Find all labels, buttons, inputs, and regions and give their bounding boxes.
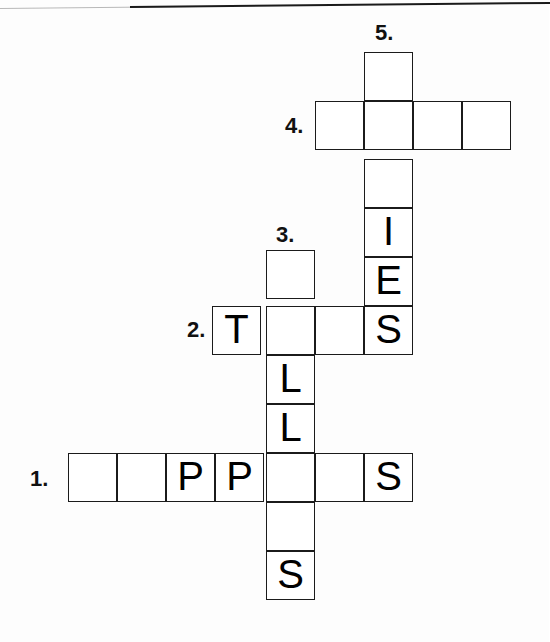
- grid-cell[interactable]: S: [364, 453, 413, 502]
- top-scan-rule: [130, 2, 550, 8]
- clue-number-down-3: 3.: [276, 224, 294, 246]
- clue-number-across-4: 4.: [285, 115, 303, 137]
- grid-cell[interactable]: [413, 101, 462, 150]
- grid-cell[interactable]: L: [266, 355, 315, 404]
- grid-cell[interactable]: L: [266, 404, 315, 453]
- grid-cell[interactable]: [266, 453, 315, 502]
- grid-cell[interactable]: P: [166, 453, 215, 502]
- clue-number-across-2: 2.: [187, 319, 205, 341]
- grid-cell[interactable]: [266, 250, 315, 299]
- clue-number-across-1: 1.: [30, 468, 48, 490]
- grid-cell[interactable]: P: [215, 453, 264, 502]
- grid-cell[interactable]: S: [266, 551, 315, 600]
- grid-cell[interactable]: [462, 101, 511, 150]
- clue-number-down-5: 5.: [375, 22, 393, 44]
- grid-cell[interactable]: [315, 101, 364, 150]
- grid-cell[interactable]: [315, 306, 364, 355]
- grid-cell[interactable]: [364, 52, 413, 101]
- grid-cell[interactable]: [266, 502, 315, 551]
- grid-cell[interactable]: [266, 306, 315, 355]
- grid-cell[interactable]: [315, 453, 364, 502]
- grid-cell[interactable]: [68, 453, 117, 502]
- grid-cell[interactable]: I: [364, 208, 413, 257]
- grid-cell[interactable]: E: [364, 257, 413, 306]
- grid-cell[interactable]: [117, 453, 166, 502]
- grid-cell[interactable]: S: [364, 306, 413, 355]
- grid-cell[interactable]: [364, 101, 413, 150]
- grid-cell[interactable]: T: [212, 306, 261, 355]
- grid-cell[interactable]: [364, 159, 413, 208]
